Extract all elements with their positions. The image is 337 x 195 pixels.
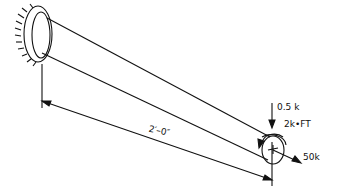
cantilever-diagram: 0.5 k 2k•FT 50k 2′–0″ [0,0,337,195]
fixed-support-hatching [15,4,36,66]
label-axial-force: 0.5 k [277,102,300,112]
bar-bottom-edge [42,53,268,160]
label-torque: 2k•FT [284,119,311,129]
label-length: 2′–0″ [148,124,172,138]
support-flange-inner [32,12,50,58]
dimension-line [42,101,272,180]
label-transverse-force: 50k [303,152,320,162]
bar-top-edge [47,18,270,137]
support-flange-outer [24,6,52,62]
